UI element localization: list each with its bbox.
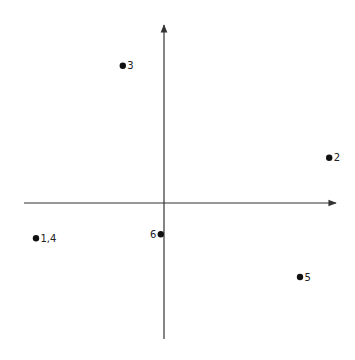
points-layer: 321,465 xyxy=(33,60,340,282)
data-point: 5 xyxy=(297,272,311,283)
point-label: 2 xyxy=(334,152,340,163)
point-marker xyxy=(120,63,126,69)
point-label: 1,4 xyxy=(41,233,57,244)
point-marker xyxy=(158,231,164,237)
point-label: 5 xyxy=(305,272,311,283)
point-marker xyxy=(33,235,39,241)
point-marker xyxy=(326,155,332,161)
point-label: 6 xyxy=(150,229,156,240)
data-point: 1,4 xyxy=(33,233,57,244)
point-marker xyxy=(297,274,303,280)
data-point: 3 xyxy=(120,60,134,71)
data-point: 2 xyxy=(326,152,340,163)
scatter-chart: 321,465 xyxy=(0,0,355,360)
point-label: 3 xyxy=(127,60,133,71)
data-point: 6 xyxy=(150,229,164,240)
